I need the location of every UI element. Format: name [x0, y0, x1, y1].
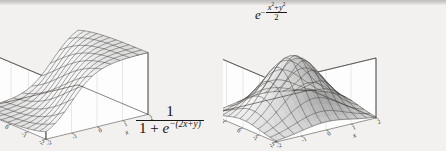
sigmoid-formula-numerator: 1	[136, 104, 204, 119]
gaussian-surface-canvas: 1-2-1012x-2-1012y	[223, 0, 446, 151]
gaussian-surface-plot: 1-2-1012x-2-1012y e− x2+y2 2	[223, 0, 446, 151]
xaxis-label: x	[350, 131, 358, 140]
gaussian-formula-caption: e− x2+y2 2	[255, 3, 287, 21]
ytick-label: -2	[268, 141, 275, 149]
xtick-label: -2	[46, 139, 53, 147]
ytick-label: -2	[38, 138, 45, 146]
ytick-label: -1	[252, 134, 259, 142]
xtick-label: 1	[123, 121, 128, 128]
gaussian-formula-exponent: − x2+y2 2	[261, 3, 288, 21]
ytick-label: 0	[4, 124, 10, 131]
xaxis-label: x	[123, 128, 131, 137]
gaussian-exponent-numerator: x2+y2	[266, 3, 288, 12]
sigmoid-formula-caption: 1 1 + e−(2x+y)	[136, 104, 204, 136]
gaussian-exponent-denominator: 2	[266, 12, 288, 22]
ytick-label: -1	[21, 131, 28, 139]
xtick-label: 2	[376, 118, 381, 125]
ytick-label: 0	[236, 127, 242, 134]
sigmoid-exponent: −(2x+y)	[169, 119, 201, 129]
xtick-label: -2	[275, 142, 282, 150]
sigmoid-formula-denominator: 1 + e−(2x+y)	[136, 120, 204, 136]
figure-two-surface-plots: 1-2-1012x-2-1012y 1 1 + e−(2x+y) 1-2-101…	[0, 0, 446, 151]
xtick-label: 1	[351, 124, 356, 131]
xtick-label: 0	[97, 127, 102, 134]
sigmoid-surface-plot: 1-2-1012x-2-1012y 1 1 + e−(2x+y)	[0, 0, 223, 151]
xtick-label: -1	[71, 133, 78, 141]
xtick-label: 0	[326, 130, 331, 137]
ytick-label: 1	[223, 120, 225, 127]
xtick-label: -1	[300, 136, 307, 144]
